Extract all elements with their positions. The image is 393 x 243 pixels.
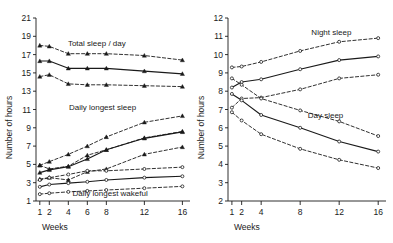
data-point-marker bbox=[143, 176, 146, 179]
chart-annotation: Total sleep / day bbox=[68, 39, 126, 48]
series-line bbox=[40, 131, 183, 169]
series-line bbox=[232, 112, 378, 168]
y-tick-label: 13 bbox=[22, 86, 32, 96]
data-point-marker bbox=[230, 77, 233, 80]
y-tick-label: 9 bbox=[26, 123, 31, 133]
data-point-marker bbox=[338, 158, 341, 161]
series-line bbox=[40, 147, 183, 180]
data-point-marker bbox=[180, 114, 184, 118]
x-tick-label: 1 bbox=[230, 207, 235, 217]
x-tick-label: 8 bbox=[298, 207, 303, 217]
data-point-marker bbox=[38, 193, 41, 196]
y-tick-label: 11 bbox=[22, 105, 31, 115]
data-point-marker bbox=[105, 178, 108, 181]
x-tick-label: 16 bbox=[373, 207, 383, 217]
data-point-marker bbox=[377, 73, 380, 76]
data-point-marker bbox=[48, 176, 51, 179]
y-tick-label: 4 bbox=[218, 159, 223, 169]
data-point-marker bbox=[181, 166, 184, 169]
y-tick-label: 7 bbox=[218, 105, 223, 115]
x-tick-label: 2 bbox=[239, 207, 244, 217]
data-point-marker bbox=[67, 173, 70, 176]
data-point-marker bbox=[85, 153, 89, 157]
data-point-marker bbox=[260, 133, 263, 136]
chart-annotation: Day sleep bbox=[308, 111, 344, 120]
series-line bbox=[40, 61, 183, 74]
chart-annotation: Daily longest sleep bbox=[69, 103, 137, 112]
y-axis-title: Number of hours bbox=[196, 96, 206, 159]
x-tick-label: 8 bbox=[104, 207, 109, 217]
x-tick-label: 1 bbox=[37, 207, 42, 217]
y-tick-label: 2 bbox=[218, 196, 223, 206]
y-tick-label: 3 bbox=[26, 178, 31, 188]
data-point-marker bbox=[338, 59, 341, 62]
data-point-marker bbox=[377, 150, 380, 153]
data-point-marker bbox=[338, 140, 341, 143]
data-point-marker bbox=[240, 119, 243, 122]
x-axis-title: Weeks bbox=[234, 222, 260, 232]
series-line bbox=[40, 132, 183, 173]
y-tick-label: 9 bbox=[218, 68, 223, 78]
y-tick-label: 6 bbox=[218, 123, 223, 133]
data-point-marker bbox=[86, 169, 89, 172]
sleep-duration-figure: 13579111315171921124681216WeeksNumber of… bbox=[0, 0, 393, 243]
data-point-marker bbox=[85, 144, 89, 148]
data-point-marker bbox=[240, 65, 243, 68]
data-point-marker bbox=[66, 152, 70, 156]
y-axis-title: Number of hours bbox=[4, 96, 14, 159]
left-chart-svg: 13579111315171921124681216WeeksNumber of… bbox=[0, 0, 196, 243]
data-point-marker bbox=[104, 135, 108, 139]
data-point-marker bbox=[86, 180, 89, 183]
x-tick-label: 12 bbox=[140, 207, 150, 217]
data-point-marker bbox=[299, 126, 302, 129]
data-point-marker bbox=[48, 192, 51, 195]
data-point-marker bbox=[338, 40, 341, 43]
data-point-marker bbox=[105, 169, 108, 172]
series-line bbox=[232, 78, 378, 136]
x-tick-label: 4 bbox=[66, 207, 71, 217]
data-point-marker bbox=[260, 78, 263, 81]
chart-panel-right: 2345678910111212481216WeeksNumber of hou… bbox=[196, 0, 393, 243]
y-tick-label: 5 bbox=[218, 141, 223, 151]
chart-annotation: Daily longest wakeful bbox=[73, 189, 148, 198]
y-tick-label: 12 bbox=[214, 13, 224, 23]
data-point-marker bbox=[67, 190, 70, 193]
data-point-marker bbox=[230, 66, 233, 69]
data-point-marker bbox=[230, 106, 233, 109]
y-tick-label: 19 bbox=[22, 31, 32, 41]
data-point-marker bbox=[338, 120, 341, 123]
y-tick-label: 10 bbox=[214, 50, 224, 60]
data-point-marker bbox=[67, 182, 70, 185]
chart-panel-left: 13579111315171921124681216WeeksNumber of… bbox=[0, 0, 196, 243]
data-point-marker bbox=[143, 167, 146, 170]
series-line bbox=[40, 176, 183, 187]
x-tick-label: 4 bbox=[259, 207, 264, 217]
data-point-marker bbox=[299, 88, 302, 91]
y-tick-label: 1 bbox=[26, 196, 31, 206]
data-point-marker bbox=[240, 83, 243, 86]
x-axis-title: Weeks bbox=[42, 222, 68, 232]
x-tick-label: 2 bbox=[47, 207, 52, 217]
x-tick-label: 6 bbox=[85, 207, 90, 217]
x-tick-label: 16 bbox=[178, 207, 188, 217]
y-tick-label: 21 bbox=[22, 13, 32, 23]
data-point-marker bbox=[299, 68, 302, 71]
series-line bbox=[40, 75, 183, 87]
y-tick-label: 7 bbox=[26, 141, 31, 151]
y-tick-label: 15 bbox=[22, 68, 32, 78]
data-point-marker bbox=[38, 178, 41, 181]
data-point-marker bbox=[38, 185, 41, 188]
data-point-marker bbox=[48, 183, 51, 186]
y-tick-label: 11 bbox=[214, 31, 223, 41]
data-point-marker bbox=[230, 92, 233, 95]
y-tick-label: 17 bbox=[22, 50, 32, 60]
data-point-marker bbox=[299, 49, 302, 52]
data-point-marker bbox=[338, 77, 341, 80]
series-line bbox=[232, 56, 378, 87]
series-line bbox=[232, 38, 378, 67]
y-tick-label: 5 bbox=[26, 159, 31, 169]
data-point-marker bbox=[230, 111, 233, 114]
series-line bbox=[40, 167, 183, 180]
chart-annotation: Night sleep bbox=[311, 28, 352, 37]
data-point-marker bbox=[180, 145, 184, 149]
